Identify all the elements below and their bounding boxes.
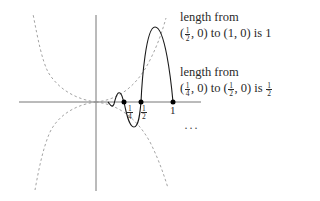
upper-left-envelope: [33, 14, 96, 102]
fraction-length-half: 12: [266, 82, 272, 97]
annotation-length-quarter-to-half: length from (14, 0) to (12, 0) is 12: [180, 65, 272, 97]
continuation-ellipsis: ···: [184, 121, 199, 136]
fraction-one-quarter: 14: [185, 82, 191, 97]
tick-label-one: 1: [170, 104, 176, 116]
point-quarter: [122, 100, 127, 105]
lower-left-envelope: [35, 102, 96, 190]
tick-label-quarter: 1 4: [127, 105, 133, 120]
tick-label-half: 1 2: [141, 105, 147, 120]
upper-right-envelope: [96, 18, 166, 102]
annotation-length-half-to-one: length from (12, 0) to (1, 0) is 1: [180, 10, 271, 42]
fraction-one-half: 12: [185, 27, 191, 42]
